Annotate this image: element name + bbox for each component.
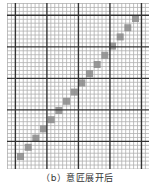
diagonal-square bbox=[71, 89, 78, 96]
diagonal-square bbox=[132, 15, 139, 22]
diagonal-square bbox=[48, 116, 55, 123]
diagonal-square bbox=[78, 79, 85, 86]
diagonal-square bbox=[117, 33, 124, 40]
diagonal-square bbox=[17, 153, 24, 160]
diagonal-square bbox=[63, 98, 70, 105]
diagonal-square bbox=[86, 70, 93, 77]
diagonal-square bbox=[40, 125, 47, 132]
diagonal-square bbox=[25, 144, 32, 151]
diagonal-square bbox=[101, 52, 108, 59]
diagonal-square bbox=[124, 24, 131, 31]
design-grid bbox=[7, 3, 149, 169]
diagonal-square bbox=[94, 61, 101, 68]
figure-caption: （b）意匠展开后 bbox=[0, 172, 155, 184]
grid-svg bbox=[7, 3, 149, 169]
diagonal-square bbox=[32, 135, 39, 142]
